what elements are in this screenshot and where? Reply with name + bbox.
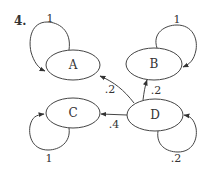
- edge-c-c: 1: [30, 114, 70, 165]
- node-c-label: C: [68, 106, 77, 120]
- edge-a-a: 1: [30, 12, 69, 71]
- edge-c-c-label: 1: [46, 152, 53, 165]
- node-c: C: [46, 98, 100, 128]
- edge-d-b: .2: [143, 80, 161, 100]
- edge-d-d: .2: [158, 115, 197, 165]
- edge-d-c-label: .4: [109, 118, 120, 131]
- edge-b-b-label: 1: [174, 13, 181, 26]
- problem-number: 4.: [14, 14, 27, 28]
- edge-b-b: 1: [156, 13, 196, 67]
- edge-d-a-label: .2: [105, 83, 116, 96]
- node-d-label: D: [150, 108, 160, 122]
- edge-d-d-label: .2: [171, 152, 182, 165]
- edge-d-c: .4: [101, 114, 127, 131]
- edge-d-a: .2: [100, 76, 134, 103]
- edge-d-b-label: .2: [151, 84, 162, 97]
- node-d: D: [127, 99, 183, 131]
- node-a-label: A: [68, 58, 78, 72]
- markov-chain-diagram: 4. A B C D 1 1 1 .2 .2 .2: [0, 0, 205, 174]
- node-b-label: B: [150, 57, 159, 71]
- node-b: B: [126, 48, 182, 80]
- node-a: A: [46, 50, 100, 80]
- edge-a-a-label: 1: [47, 12, 54, 25]
